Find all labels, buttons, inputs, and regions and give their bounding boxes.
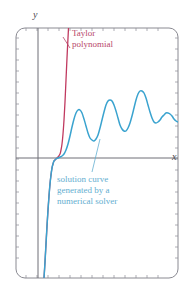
taylor-polynomial-label: Taylor polynomial — [72, 28, 113, 50]
y-axis-label: y — [33, 10, 37, 20]
solution-curve-label: solution curve generated by a numerical … — [57, 174, 117, 207]
x-axis-label: x — [172, 152, 176, 162]
